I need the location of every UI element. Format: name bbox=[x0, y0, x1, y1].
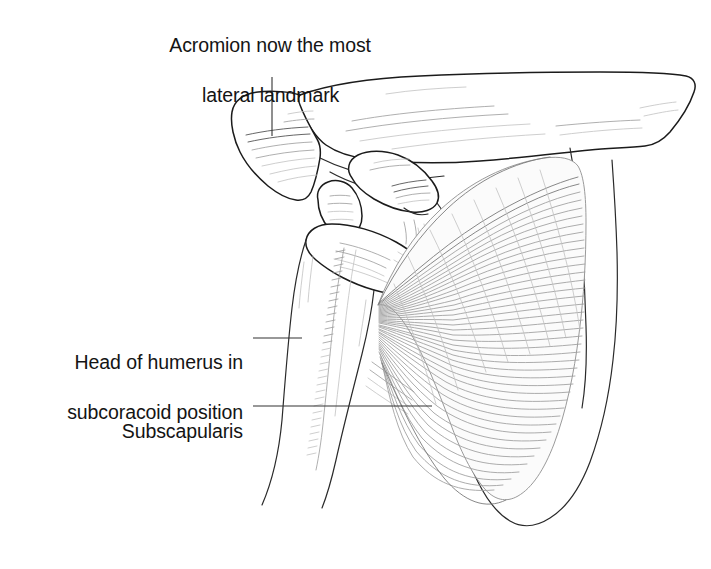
label-acromion-line1: Acromion now the most bbox=[169, 34, 371, 56]
bicipital-groove-line bbox=[316, 248, 344, 470]
groove-tick bbox=[329, 299, 338, 301]
label-acromion: Acromion now the most lateral landmark bbox=[0, 8, 520, 133]
anatomy-figure: Acromion now the most lateral landmark H… bbox=[0, 0, 711, 569]
groove-tick bbox=[322, 348, 331, 350]
groove-tick bbox=[331, 285, 340, 287]
groove-tick bbox=[313, 411, 322, 413]
groove-tick bbox=[307, 453, 316, 455]
groove-tick bbox=[318, 376, 327, 378]
label-humerus-line1: Head of humerus in bbox=[75, 351, 243, 373]
groove-tick bbox=[319, 369, 328, 371]
shaft-streak-1 bbox=[299, 262, 304, 308]
label-acromion-line2: lateral landmark bbox=[202, 84, 339, 106]
groove-hatching bbox=[307, 250, 345, 455]
groove-tick bbox=[323, 341, 332, 343]
groove-tick bbox=[315, 397, 324, 399]
shaft-streak-2 bbox=[308, 256, 313, 302]
groove-tick bbox=[312, 418, 321, 420]
groove-tick bbox=[310, 432, 319, 434]
groove-tick bbox=[328, 306, 337, 308]
groove-tick bbox=[321, 355, 330, 357]
groove-tick bbox=[327, 313, 336, 315]
groove-tick bbox=[330, 292, 339, 294]
humerus-lateral-cortex bbox=[262, 240, 306, 505]
groove-tick bbox=[317, 383, 326, 385]
capsule-mark-1 bbox=[404, 222, 406, 244]
groove-tick bbox=[308, 446, 317, 448]
groove-tick bbox=[316, 390, 325, 392]
groove-tick bbox=[309, 439, 318, 441]
groove-tick bbox=[320, 362, 329, 364]
label-subscapularis: Subscapularis bbox=[0, 394, 243, 469]
humerus-medial-cortex bbox=[322, 290, 374, 508]
groove-tick bbox=[332, 278, 341, 280]
label-subscapularis-line1: Subscapularis bbox=[122, 420, 243, 442]
groove-tick bbox=[311, 425, 320, 427]
